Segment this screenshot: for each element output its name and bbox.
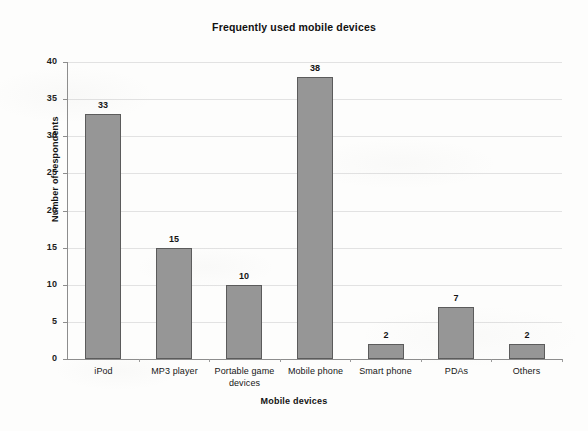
bar-value-label: 2 <box>503 330 551 340</box>
bar <box>156 248 192 359</box>
y-axis-tick <box>63 62 67 63</box>
y-axis-tick-label: 10 <box>31 279 57 289</box>
x-axis-tick <box>350 359 351 362</box>
x-axis-category-label-line: iPod <box>68 366 139 378</box>
bar <box>85 114 121 359</box>
y-axis-tick <box>63 285 67 286</box>
x-axis-tick <box>209 359 210 362</box>
x-axis-category-label-line: PDAs <box>421 366 492 378</box>
x-axis-tick <box>562 359 563 362</box>
x-axis-category-label: PDAs <box>421 366 492 378</box>
x-axis-category-label-line: devices <box>209 378 280 390</box>
x-axis-category-label-line: MP3 player <box>139 366 210 378</box>
x-axis-category-label: Smart phone <box>350 366 421 378</box>
bar-value-label: 15 <box>150 234 198 244</box>
y-axis-tick-label: 0 <box>31 353 57 363</box>
x-axis-category-label: Mobile phone <box>280 366 351 378</box>
x-axis-tick <box>280 359 281 362</box>
y-axis-tick <box>63 136 67 137</box>
x-axis-tick <box>491 359 492 362</box>
x-axis-category-label: Others <box>491 366 562 378</box>
y-axis-tick <box>63 359 67 360</box>
y-axis-tick-label: 35 <box>31 93 57 103</box>
y-axis-tick-label: 5 <box>31 316 57 326</box>
y-axis-tick <box>63 173 67 174</box>
x-axis-category-label: MP3 player <box>139 366 210 378</box>
y-axis-tick-label: 25 <box>31 167 57 177</box>
bar <box>438 307 474 359</box>
y-axis-tick <box>63 248 67 249</box>
x-axis-category-label-line: Smart phone <box>350 366 421 378</box>
y-axis-tick <box>63 211 67 212</box>
y-axis-tick-label: 15 <box>31 242 57 252</box>
bar <box>509 344 545 359</box>
x-axis-category-label-line: Mobile phone <box>280 366 351 378</box>
chart-title: Frequently used mobile devices <box>0 21 588 33</box>
bar <box>297 77 333 359</box>
chart-page: Frequently used mobile devices Number of… <box>0 0 588 431</box>
bar-value-label: 7 <box>432 293 480 303</box>
x-axis-category-label: iPod <box>68 366 139 378</box>
x-axis-line <box>67 359 562 360</box>
y-axis-tick <box>63 322 67 323</box>
bar <box>368 344 404 359</box>
bar-value-label: 33 <box>79 100 127 110</box>
y-axis-tick-label: 30 <box>31 130 57 140</box>
y-axis-tick <box>63 99 67 100</box>
bar-value-label: 2 <box>362 330 410 340</box>
bar-value-label: 38 <box>291 63 339 73</box>
bar-value-label: 10 <box>220 271 268 281</box>
x-axis-category-label: Portable gamedevices <box>209 366 280 389</box>
x-axis-title: Mobile devices <box>0 396 588 406</box>
y-axis-tick-label: 20 <box>31 205 57 215</box>
x-axis-tick <box>421 359 422 362</box>
x-axis-category-label-line: Portable game <box>209 366 280 378</box>
y-axis-tick-label: 40 <box>31 56 57 66</box>
x-axis-tick <box>139 359 140 362</box>
x-axis-category-label-line: Others <box>491 366 562 378</box>
bar <box>226 285 262 359</box>
